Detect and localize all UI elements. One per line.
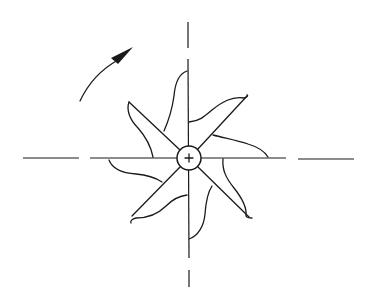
- rotation-arrow-icon: [80, 47, 133, 101]
- blade-north: [164, 71, 187, 131]
- blade-southeast: [223, 159, 252, 218]
- blade-northeast: [189, 95, 248, 122]
- rotor-diagram: [0, 0, 368, 306]
- blade-south: [189, 186, 212, 239]
- blade-northwest: [128, 102, 153, 157]
- blade-east: [213, 135, 268, 157]
- blade-west: [109, 160, 162, 182]
- hub: [177, 146, 201, 170]
